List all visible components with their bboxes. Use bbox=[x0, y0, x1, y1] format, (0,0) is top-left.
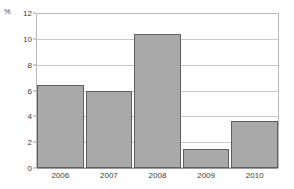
x-axis-tick-label: 2008 bbox=[133, 170, 182, 181]
bar[interactable] bbox=[134, 34, 181, 168]
x-axis-tick-label: 2007 bbox=[85, 170, 134, 181]
bar-slot bbox=[85, 13, 134, 168]
y-axis-tick-label: 0 bbox=[0, 164, 32, 173]
x-axis-tick-label: 2010 bbox=[230, 170, 279, 181]
bar-slot bbox=[133, 13, 182, 168]
bar[interactable] bbox=[37, 85, 84, 168]
x-axis-baseline bbox=[37, 168, 278, 169]
bar[interactable] bbox=[231, 121, 278, 168]
x-axis-tick-label: 2006 bbox=[36, 170, 85, 181]
bar[interactable] bbox=[86, 91, 133, 168]
y-axis-tick-label: 2 bbox=[0, 138, 32, 147]
bar-slot bbox=[36, 13, 85, 168]
y-axis-tick-label: 12 bbox=[0, 9, 32, 18]
y-axis-tick-label: 8 bbox=[0, 60, 32, 69]
bar[interactable] bbox=[183, 149, 230, 168]
y-axis-tick-label: 6 bbox=[0, 86, 32, 95]
bar-slot bbox=[230, 13, 279, 168]
bars-layer bbox=[36, 13, 279, 168]
y-axis-tick-label: 10 bbox=[0, 34, 32, 43]
bar-slot bbox=[182, 13, 231, 168]
y-axis-tick-label: 4 bbox=[0, 112, 32, 121]
x-axis-tick-label: 2009 bbox=[182, 170, 231, 181]
bar-chart: % 024681012 20062007200820092010 bbox=[0, 0, 294, 189]
y-axis-ticks: 024681012 bbox=[0, 0, 32, 189]
x-axis-labels: 20062007200820092010 bbox=[36, 170, 279, 186]
